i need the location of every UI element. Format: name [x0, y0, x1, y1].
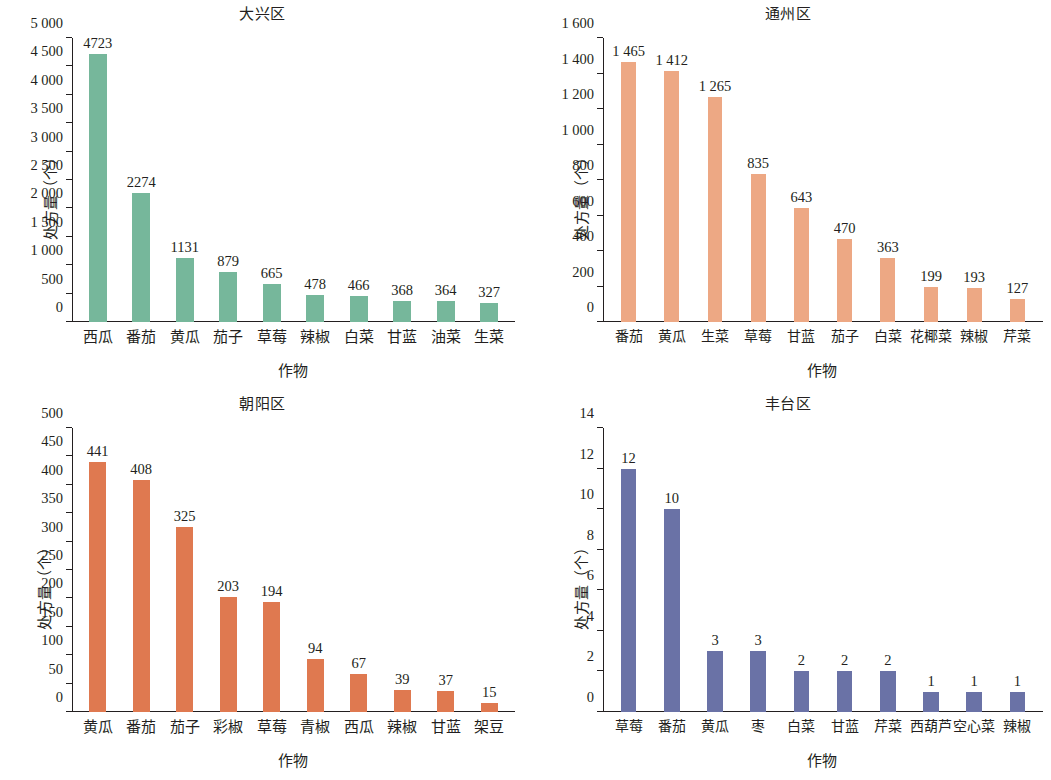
x-tick-label: 番茄	[607, 327, 650, 347]
bar[interactable]: 37	[437, 691, 454, 712]
bar-value-label: 643	[791, 190, 813, 205]
bar[interactable]: 470	[837, 239, 852, 322]
bar[interactable]: 193	[967, 288, 982, 322]
bar[interactable]: 2	[837, 671, 853, 712]
bar[interactable]: 1	[1010, 692, 1026, 712]
bar[interactable]: 408	[133, 480, 150, 712]
bar-slot: 10	[650, 428, 693, 712]
bar[interactable]: 194	[263, 602, 280, 712]
bar-value-label: 1	[927, 674, 934, 689]
x-tick-label: 枣	[737, 717, 780, 737]
bar-value-label: 1	[971, 674, 978, 689]
bar[interactable]: 15	[481, 703, 498, 712]
bar[interactable]: 3	[707, 651, 723, 712]
bar[interactable]: 466	[350, 296, 368, 322]
bar[interactable]: 478	[306, 295, 324, 322]
x-tick-label: 白菜	[866, 327, 909, 347]
bar[interactable]: 1 265	[708, 97, 723, 322]
bar[interactable]: 2	[794, 671, 810, 712]
bar-value-label: 363	[877, 240, 899, 255]
bar-value-label: 3	[711, 633, 718, 648]
bar-slot: 12	[607, 428, 650, 712]
bar-value-label: 879	[217, 254, 239, 269]
bar-slot: 67	[337, 428, 381, 712]
y-tick-label: 3 000	[30, 129, 63, 144]
bar[interactable]: 2	[880, 671, 896, 712]
y-tick-label: 10	[580, 487, 595, 502]
bar-value-label: 665	[261, 266, 283, 281]
bar-value-label: 1 412	[655, 53, 688, 68]
x-tick-label: 辣椒	[294, 327, 338, 347]
bar[interactable]: 368	[393, 301, 411, 322]
bar-slot: 3	[693, 428, 736, 712]
bar[interactable]: 363	[880, 258, 895, 322]
x-tick-label: 油菜	[424, 327, 468, 347]
bar-slot: 4723	[76, 38, 120, 322]
bar-slot: 327	[468, 38, 512, 322]
bar-value-label: 2274	[127, 175, 156, 190]
x-tick-label: 黄瓜	[163, 327, 207, 347]
bar[interactable]: 665	[263, 284, 281, 322]
bar-slot: 441	[76, 428, 120, 712]
bar-slot: 2	[823, 428, 866, 712]
bar-slot: 2	[780, 428, 823, 712]
bar[interactable]: 203	[220, 597, 237, 712]
x-tick-label: 白菜	[780, 717, 823, 737]
bar-value-label: 203	[217, 579, 239, 594]
bar[interactable]: 441	[89, 462, 106, 712]
bar-slot: 3	[737, 428, 780, 712]
y-tick-label: 0	[56, 300, 63, 315]
x-tick-label: 番茄	[650, 717, 693, 737]
bar[interactable]: 4723	[89, 54, 107, 322]
bar[interactable]: 1 412	[664, 71, 679, 322]
bar[interactable]: 127	[1010, 299, 1025, 322]
bar-slot: 466	[337, 38, 381, 322]
y-tick-label: 12	[580, 446, 595, 461]
bar[interactable]: 3	[750, 651, 766, 712]
bar-value-label: 368	[391, 283, 413, 298]
y-tick-label: 50	[49, 661, 64, 676]
bar[interactable]: 643	[794, 208, 809, 322]
x-tick-label: 辣椒	[953, 327, 996, 347]
bar-value-label: 408	[130, 462, 152, 477]
bar[interactable]: 39	[394, 690, 411, 712]
bar[interactable]: 199	[924, 287, 939, 322]
bar[interactable]: 879	[219, 272, 237, 322]
bar-value-label: 193	[963, 270, 985, 285]
plot-area: 02468101214 121033222111 草莓番茄黄瓜枣白菜甘蓝芹菜西葫…	[603, 428, 1041, 712]
y-tick-label: 150	[41, 604, 63, 619]
bar[interactable]: 1	[923, 692, 939, 712]
x-tick-label: 甘蓝	[381, 327, 425, 347]
bar-slot: 470	[823, 38, 866, 322]
bar[interactable]: 364	[437, 301, 455, 322]
bar[interactable]: 1 465	[621, 62, 636, 322]
bar-slot: 364	[424, 38, 468, 322]
x-tick-label: 番茄	[120, 717, 164, 737]
bar-slot: 199	[909, 38, 952, 322]
bar[interactable]: 94	[307, 659, 324, 712]
y-tick-label: 600	[572, 193, 594, 208]
bar-slot: 203	[207, 428, 251, 712]
bar[interactable]: 1131	[176, 258, 194, 322]
x-tick-label: 甘蓝	[424, 717, 468, 737]
bar-value-label: 835	[747, 156, 769, 171]
bar[interactable]: 327	[480, 303, 498, 322]
bar[interactable]: 10	[664, 509, 680, 712]
bar-group: 472322741131879665478466368364327	[72, 38, 513, 322]
y-tick-label: 400	[41, 462, 63, 477]
y-tick-label: 0	[587, 690, 594, 705]
bar[interactable]: 12	[621, 469, 637, 712]
x-tick-label: 茄子	[207, 327, 251, 347]
bar[interactable]: 2274	[132, 193, 150, 322]
bar-slot: 1 412	[650, 38, 693, 322]
bar[interactable]: 835	[751, 174, 766, 322]
y-tick-label: 4 500	[30, 44, 63, 59]
bar-slot: 1	[996, 428, 1039, 712]
y-tick-label: 2	[587, 649, 594, 664]
bar[interactable]: 1	[966, 692, 982, 712]
bar[interactable]: 67	[350, 674, 367, 712]
bar-slot: 2274	[120, 38, 164, 322]
bar-value-label: 2	[841, 653, 848, 668]
x-tick-label: 番茄	[120, 327, 164, 347]
bar[interactable]: 325	[176, 527, 193, 712]
